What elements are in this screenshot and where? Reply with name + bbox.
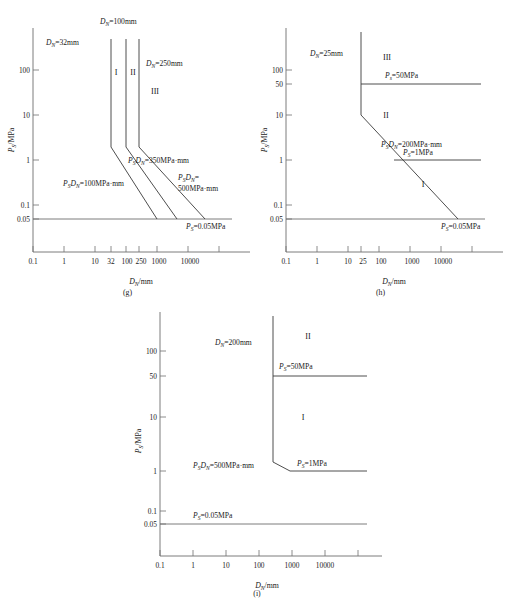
series-dn25-psdn200-h bbox=[361, 32, 458, 219]
panel-g-chart: 0.1 1 10 32 100 250 1000 10000 100 10 1 … bbox=[0, 0, 255, 300]
x-axis-title-g: DN/mm bbox=[128, 277, 153, 287]
x-tick-label: 1 bbox=[315, 257, 319, 266]
x-tick-label: 1000 bbox=[405, 257, 420, 266]
x-tick-labels-g: 0.1 1 10 32 100 250 1000 10000 bbox=[28, 257, 199, 266]
y-axis-title-h: PS/MPa bbox=[260, 127, 270, 153]
y-axis-title-g: PS/MPa bbox=[7, 127, 17, 153]
x-ticks-i bbox=[160, 550, 358, 556]
region-label-I-g: I bbox=[115, 68, 118, 77]
y-tick-label: 0.1 bbox=[148, 507, 158, 516]
x-tick-label: 1 bbox=[191, 561, 195, 570]
y-tick-label: 0.05 bbox=[270, 215, 283, 224]
region-label-III-g: III bbox=[151, 87, 159, 96]
x-tick-labels-h: 0.1 1 10 25 100 1000 10000 bbox=[281, 257, 452, 266]
x-tick-label: 32 bbox=[107, 257, 115, 266]
annotation-dn-32-g: DN=32mm bbox=[45, 38, 79, 48]
y-ticks-h bbox=[286, 70, 292, 219]
annotation-psdn-500-i: PSDN=500MPa·mm bbox=[192, 461, 254, 471]
annotation-ps-005-i: PS=0.05MPa bbox=[192, 511, 233, 521]
y-tick-label: 50 bbox=[276, 80, 284, 89]
y-tick-labels-i: 100 50 10 1 0.1 0.05 bbox=[144, 347, 157, 529]
region-label-I-h: I bbox=[422, 180, 425, 189]
y-tick-label: 1 bbox=[153, 467, 157, 476]
annotation-ps-50-i: PS=50MPa bbox=[278, 362, 313, 372]
region-label-III-h: III bbox=[383, 53, 391, 62]
annotation-ps-005-h: PS=0.05MPa bbox=[440, 222, 481, 232]
y-tick-label: 50 bbox=[150, 372, 158, 381]
x-tick-label: 10000 bbox=[316, 561, 335, 570]
y-tick-labels-h: 100 50 10 1 0.1 0.05 bbox=[270, 66, 283, 224]
region-label-I-i: I bbox=[302, 413, 305, 422]
x-tick-label: 0.1 bbox=[281, 257, 291, 266]
annotation-psdn-350-g: PSDN=350MPa·mm bbox=[127, 156, 189, 166]
y-ticks-i bbox=[160, 351, 166, 524]
annotation-dn-250-g: DN=250mm bbox=[145, 59, 183, 69]
y-tick-label: 100 bbox=[272, 66, 283, 75]
annotation-dn-200-i: DN=200mm bbox=[214, 338, 252, 348]
x-tick-labels-i: 0.1 1 10 100 1000 10000 bbox=[155, 561, 334, 570]
y-tick-label: 100 bbox=[19, 66, 30, 75]
annotation-ps-1-i: PS=1MPa bbox=[296, 459, 327, 469]
series-dn200-psdn500-i bbox=[273, 316, 290, 471]
x-ticks-g bbox=[33, 246, 219, 252]
y-tick-label: 1 bbox=[26, 156, 30, 165]
x-tick-label: 1 bbox=[62, 257, 66, 266]
panel-h-chart: 0.1 1 10 25 100 1000 10000 100 50 10 1 0… bbox=[253, 0, 508, 300]
x-tick-label: 10 bbox=[91, 257, 99, 266]
x-tick-label: 250 bbox=[135, 257, 146, 266]
region-label-II-i: II bbox=[305, 332, 311, 341]
panel-h: 0.1 1 10 25 100 1000 10000 100 50 10 1 0… bbox=[253, 0, 508, 300]
x-axis-title-h: DN/mm bbox=[381, 277, 406, 287]
x-tick-label: 10000 bbox=[181, 257, 200, 266]
x-ticks-h bbox=[286, 246, 472, 252]
annotation-psdn-100-g: PSDN=100MPa·mm bbox=[62, 179, 124, 189]
x-tick-label: 25 bbox=[359, 257, 367, 266]
x-tick-label: 100 bbox=[375, 257, 386, 266]
x-tick-label: 10 bbox=[222, 561, 230, 570]
x-tick-label: 10 bbox=[344, 257, 352, 266]
y-tick-labels-g: 100 10 1 0.1 0.05 bbox=[17, 66, 30, 224]
panel-i: 0.1 1 10 100 1000 10000 100 50 10 1 0.1 … bbox=[127, 296, 387, 603]
region-label-II-g: II bbox=[130, 68, 136, 77]
annotation-psdn-500-line2-g: 500MPa·mm bbox=[178, 184, 218, 193]
y-tick-label: 0.05 bbox=[144, 520, 157, 529]
y-tick-label: 10 bbox=[276, 111, 284, 120]
annotation-ps-005-g: PS=0.05MPa bbox=[185, 222, 226, 232]
x-tick-label: 1000 bbox=[285, 561, 300, 570]
x-tick-label: 0.1 bbox=[28, 257, 38, 266]
annotation-psdn-500-line1-g: PSDN= bbox=[177, 173, 199, 183]
y-axis-title-i: PS/MPa bbox=[134, 428, 144, 454]
panel-g: 0.1 1 10 32 100 250 1000 10000 100 10 1 … bbox=[0, 0, 255, 300]
y-tick-label: 0.05 bbox=[17, 215, 30, 224]
annotation-ps-50-h: Ps=50MPa bbox=[384, 71, 419, 81]
y-tick-label: 10 bbox=[23, 111, 31, 120]
y-tick-label: 0.1 bbox=[21, 201, 31, 210]
x-tick-label: 1000 bbox=[152, 257, 167, 266]
panel-i-chart: 0.1 1 10 100 1000 10000 100 50 10 1 0.1 … bbox=[127, 296, 387, 603]
annotation-ps-1-h: PS=1MPa bbox=[402, 148, 433, 158]
y-tick-label: 100 bbox=[146, 347, 157, 356]
y-tick-label: 0.1 bbox=[274, 201, 284, 210]
annotation-dn-25-h: DN=25mm bbox=[309, 49, 343, 59]
y-ticks-g bbox=[33, 70, 39, 219]
annotation-dn-100-g: DN=100mm bbox=[99, 17, 137, 27]
x-tick-label: 100 bbox=[121, 257, 132, 266]
y-tick-label: 1 bbox=[279, 156, 283, 165]
region-label-II-h: II bbox=[383, 111, 389, 120]
panel-caption-i: (i) bbox=[127, 589, 387, 598]
x-tick-label: 0.1 bbox=[155, 561, 165, 570]
y-tick-label: 10 bbox=[150, 413, 158, 422]
x-tick-label: 100 bbox=[253, 561, 264, 570]
x-tick-label: 10000 bbox=[434, 257, 453, 266]
